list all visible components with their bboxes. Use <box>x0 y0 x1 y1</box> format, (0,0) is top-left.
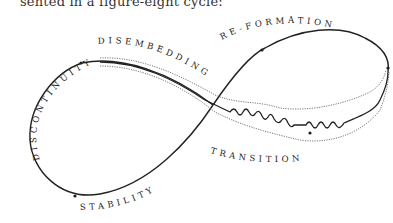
phase-marker-dot <box>308 131 311 134</box>
svg-text:DISCONTINUITY: DISCONTINUITY <box>28 56 94 162</box>
phase-marker-dot <box>260 48 263 51</box>
label-discontinuity: DISCONTINUITY <box>28 56 94 162</box>
svg-text:STABILITY: STABILITY <box>80 183 157 212</box>
label-re-formation: RE-FORMATION <box>218 15 336 41</box>
phase-marker-dot <box>386 66 389 69</box>
svg-text:RE-FORMATION: RE-FORMATION <box>218 15 336 41</box>
wavy-transition-path <box>100 62 388 128</box>
figure-eight-diagram: DISCONTINUITY DISEMBEDDING RE-FORMATION … <box>0 0 393 223</box>
dotted-envelope-lower <box>100 66 389 141</box>
right-lobe-upper-curve <box>213 30 388 105</box>
label-transition: TRANSITION <box>209 145 303 164</box>
phase-marker-dot <box>73 194 76 197</box>
label-stability: STABILITY <box>80 183 157 212</box>
svg-text:TRANSITION: TRANSITION <box>209 145 303 164</box>
